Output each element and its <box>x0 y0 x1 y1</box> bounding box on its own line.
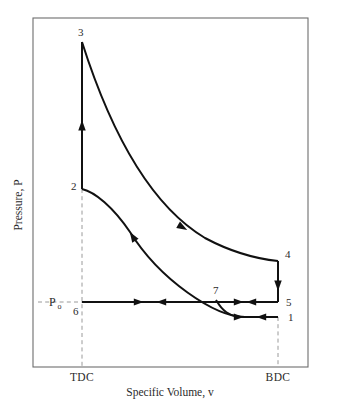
y-axis-title: Pressure, P <box>12 179 25 230</box>
reference-pressure-symbol: P <box>49 295 56 309</box>
arrow-4-to-5-icon <box>274 281 281 292</box>
arrow-intake-branch-left-icon <box>256 314 266 321</box>
guide-lines-layer <box>38 189 278 367</box>
arrow-5-to-6-left-b-icon <box>246 299 256 306</box>
x-axis-tick-labels: TDCBDC <box>70 371 291 383</box>
reference-pressure-subscript: o <box>58 302 62 311</box>
arrow-3-to-4-icon <box>176 222 189 234</box>
x-axis-title: Specific Volume, v <box>126 386 214 399</box>
pv-diagram-canvas: 1234567 TDCBDC P o Specific Volume, v Pr… <box>0 0 337 411</box>
state-point-label-7: 7 <box>213 284 219 296</box>
arrow-2-to-3-icon <box>78 120 85 131</box>
state-point-labels-layer: 1234567 <box>71 26 294 323</box>
process-paths-layer <box>82 42 278 317</box>
state-point-label-4: 4 <box>285 248 291 260</box>
x-axis-tick-bdc: BDC <box>266 371 291 383</box>
state-point-label-2: 2 <box>71 180 77 192</box>
arrow-intake-branch-right-icon <box>234 314 244 321</box>
state-point-label-5: 5 <box>286 296 292 308</box>
state-point-label-6: 6 <box>73 305 79 317</box>
arrow-5-to-6-left-a-icon <box>156 299 166 306</box>
arrow-6-to-1-right-a-icon <box>134 299 144 306</box>
arrow-6-to-1-right-b-icon <box>234 299 244 306</box>
pv-diagram-figure: 1234567 TDCBDC P o Specific Volume, v Pr… <box>0 0 337 411</box>
state-point-label-3: 3 <box>78 26 84 38</box>
reference-pressure-label: P o <box>49 295 62 311</box>
x-axis-tick-tdc: TDC <box>70 371 94 383</box>
process-path-compression-1-to-2 <box>82 189 278 317</box>
state-point-label-1: 1 <box>288 311 294 323</box>
